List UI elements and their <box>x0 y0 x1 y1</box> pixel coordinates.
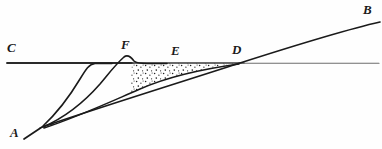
figure-canvas: A B C D E F <box>0 0 382 149</box>
label-B: B <box>363 3 372 16</box>
label-F: F <box>121 38 130 51</box>
label-A: A <box>10 126 19 139</box>
stippled-sediment-wedge <box>130 63 239 94</box>
label-D: D <box>232 43 241 56</box>
label-E: E <box>171 44 180 57</box>
label-C: C <box>7 41 16 54</box>
inner-profile-curve-1 <box>43 64 112 127</box>
main-slope-curve-A-to-B <box>24 22 380 139</box>
cross-section-drawing <box>0 0 382 149</box>
